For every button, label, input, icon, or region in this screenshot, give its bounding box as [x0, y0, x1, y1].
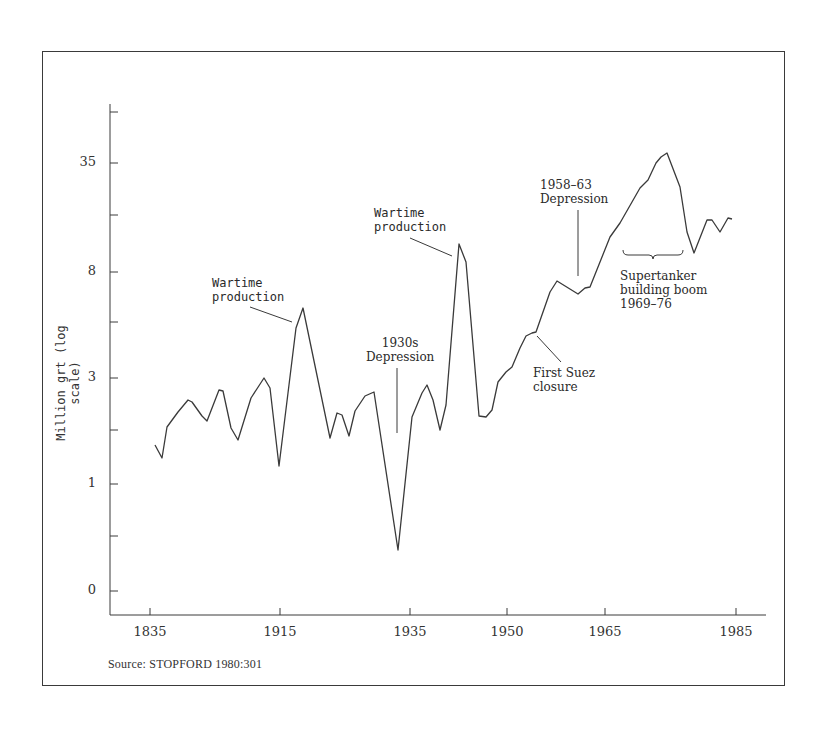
annotation-leaders	[250, 210, 683, 433]
y-axis-ticks	[110, 112, 118, 591]
annotation-supertanker: Supertankerbuilding boom1969–76	[620, 269, 707, 311]
annotation-line: Wartime	[374, 206, 446, 220]
annotation-line: production	[374, 220, 446, 234]
annotation-line: Depression	[366, 350, 434, 364]
annotation-line: Depression	[540, 192, 608, 206]
annotation-wartime-ww2: Wartimeproduction	[374, 206, 446, 234]
annotation-first-suez: First Suezclosure	[533, 366, 595, 394]
source-note: Source: STOPFORD 1980:301	[108, 657, 262, 672]
annotation-wartime-ww1: Wartimeproduction	[212, 276, 284, 304]
annotation-line: 1930s	[366, 336, 434, 350]
chart-plot-area	[0, 0, 830, 730]
annotation-line: Wartime	[212, 276, 284, 290]
annotation-line: Supertanker	[620, 269, 707, 283]
annotation-line: closure	[533, 380, 595, 394]
brace-icon	[623, 250, 683, 259]
annotation-depression-1958: 1958–63Depression	[540, 178, 608, 206]
y-tick-label: 1	[66, 475, 96, 490]
annotation-line: First Suez	[533, 366, 595, 380]
y-tick-label: 35	[66, 154, 96, 169]
annotation-line: production	[212, 290, 284, 304]
x-tick-label: 1965	[575, 624, 635, 639]
annotation-depression-1930s: 1930sDepression	[366, 336, 434, 364]
y-tick-label: 8	[66, 263, 96, 278]
x-tick-label: 1835	[120, 624, 180, 639]
annotation-line: 1958–63	[540, 178, 608, 192]
x-tick-label: 1935	[380, 624, 440, 639]
x-tick-label: 1950	[477, 624, 537, 639]
annotation-line: building boom	[620, 283, 707, 297]
y-axis-title: Million grt (log scale)	[54, 303, 82, 463]
x-tick-label: 1985	[706, 624, 766, 639]
x-tick-label: 1915	[250, 624, 310, 639]
x-axis-ticks	[150, 608, 736, 615]
annotation-line: 1969–76	[620, 297, 707, 311]
leader-line	[537, 336, 561, 362]
leader-line	[250, 307, 292, 322]
leader-line	[410, 238, 452, 256]
y-tick-label: 0	[66, 582, 96, 597]
